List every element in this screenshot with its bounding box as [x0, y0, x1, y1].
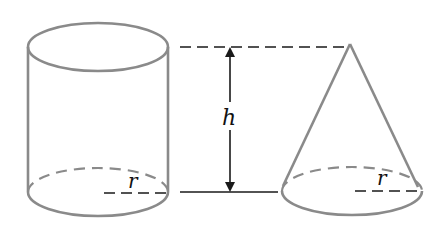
cone-base-front-arc	[282, 191, 422, 215]
cylinder-bottom-front-arc	[28, 192, 168, 216]
cylinder-top-ellipse	[28, 23, 168, 71]
cylinder-radius-label: r	[128, 169, 139, 193]
height-label: h	[222, 105, 236, 130]
cone-base-back-arc	[282, 167, 422, 191]
cylinder-bottom-back-arc	[28, 168, 168, 192]
cylinder: r	[28, 23, 168, 216]
cone-radius-label: r	[377, 166, 388, 190]
cone: r	[282, 44, 422, 215]
cylinder-cone-diagram: r h r	[0, 0, 442, 226]
cone-left-side	[283, 44, 350, 186]
